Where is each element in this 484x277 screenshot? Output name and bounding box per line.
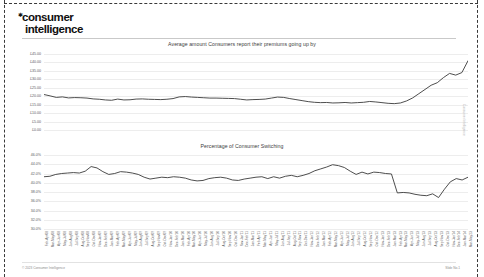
x-axis-tick-label: Jul-Sep'10 — [216, 231, 220, 246]
x-axis-tick-label: Jun-Aug'08 — [69, 231, 73, 247]
x-axis-tick-label: Aug-Oct'11 — [293, 231, 297, 246]
x-axis-tick-label: Mar-May'09 — [122, 231, 126, 247]
footer-divider — [22, 262, 456, 263]
chart1-plot-area: £45.00£40.00£35.00£30.00£25.00£20.00£15.… — [44, 54, 468, 130]
x-axis-tick-label: Apr-Jun'13 — [410, 231, 414, 246]
x-axis-tick-label: Jan-Mar'12 — [322, 231, 326, 246]
y-axis-tick-label: £10.00 — [30, 111, 41, 115]
chart-consumer-switching: Percentage of Consumer Switching 46.0%44… — [0, 143, 484, 263]
x-axis-tick-label: Oct-Dec'08 — [92, 231, 96, 246]
x-axis-tick-label: Jul-Sep'09 — [145, 231, 149, 246]
x-axis-tick-label: Jul-Sep'12 — [357, 231, 361, 246]
x-axis-tick-label: Apr-Jun'09 — [128, 231, 132, 246]
x-axis-tick-label: Apr-Jun'11 — [269, 231, 273, 246]
x-axis-tick-label: Jul-Sep'11 — [287, 231, 291, 245]
y-axis-tick-label: 42.0% — [31, 172, 41, 176]
x-axis-tick-label: Jun-Aug'13 — [422, 231, 426, 247]
chart1-series — [44, 54, 468, 130]
x-axis-tick-label: Mar-May'11 — [263, 231, 267, 247]
x-axis-tick-label: Jan-Mar'11 — [251, 231, 255, 246]
y-axis-tick-label: £5.00 — [32, 120, 41, 124]
y-axis-tick-label: 32.0% — [31, 218, 41, 222]
slide-page: ✱ consumer intelligence Average amount C… — [0, 0, 484, 277]
x-axis-tick-label: Mar-May'12 — [334, 231, 338, 247]
x-axis-tick-label: Dec-Feb'12 — [316, 231, 320, 247]
x-axis-tick-label: Sep-Nov'13 — [440, 231, 444, 247]
x-axis-tick-label: Jun-Aug'10 — [210, 231, 214, 247]
x-axis-tick-label: Jun-Aug'11 — [281, 231, 285, 246]
y-axis-tick-label: £35.00 — [30, 69, 41, 73]
x-axis-tick-label: Nov-Jan'10 — [169, 231, 173, 247]
x-axis-tick-label: Dec-Feb'14 — [457, 231, 461, 247]
x-axis-tick-label: Feb-Apr'10 — [187, 231, 191, 246]
y-axis-tick-label: 34.0% — [31, 209, 41, 213]
x-axis-tick-label: Nov-Jan'09 — [98, 231, 102, 247]
y-axis-tick-label: 36.0% — [31, 199, 41, 203]
x-axis-tick-label: Jan-Mar'13 — [393, 231, 397, 246]
x-axis-tick-label: Sep-Nov'10 — [228, 231, 232, 247]
x-axis-tick-label: Sep-Nov'12 — [369, 231, 373, 247]
x-axis-tick-label: Nov-Jan'14 — [452, 231, 456, 247]
chart2-title: Percentage of Consumer Switching — [0, 143, 484, 149]
x-axis-tick-label: Jan-Mar'14 — [463, 231, 467, 246]
x-axis-tick-label: Nov-Jan'12 — [310, 231, 314, 247]
x-axis-tick-label: Apr-Jun'12 — [340, 231, 344, 246]
x-axis-tick-label: Aug-Oct'12 — [363, 231, 367, 246]
x-axis-tick-label: Aug-Oct'09 — [151, 231, 155, 246]
x-axis-tick-label: Jan-Mar'09 — [110, 231, 114, 246]
page-border-top — [4, 3, 478, 4]
y-axis-tick-label: 40.0% — [31, 181, 41, 185]
x-axis-tick-label: May-Jul'11 — [275, 231, 279, 246]
x-axis-tick-label: Aug-Oct'10 — [222, 231, 226, 246]
x-axis-tick-label: Sep-Nov'08 — [86, 231, 90, 247]
y-axis-tick-label: £20.00 — [30, 94, 41, 98]
y-axis-tick-label: 30.0% — [31, 227, 41, 231]
y-axis-tick-label: 46.0% — [31, 153, 41, 157]
x-axis-tick-label: May-Jul'09 — [134, 231, 138, 246]
x-axis-tick-label: Feb-Apr'08 — [45, 231, 49, 246]
x-axis-tick-label: Jul-Sep'08 — [75, 231, 79, 246]
x-axis-tick-label: May-Jul'10 — [204, 231, 208, 246]
x-axis-tick-label: Dec-Feb'13 — [387, 231, 391, 247]
gridline — [44, 130, 468, 131]
x-axis-tick-label: Oct-Dec'12 — [375, 231, 379, 246]
x-axis-tick-label: Oct-Dec'10 — [234, 231, 238, 246]
footer-slide-marker: Slide No.1 — [445, 266, 460, 270]
x-axis-tick-label: Jun-Aug'09 — [139, 231, 143, 247]
y-axis-tick-label: £45.00 — [30, 52, 41, 56]
chart-average-premium-increase: Average amount Consumers report their pr… — [0, 41, 484, 141]
x-axis-tick-label: Feb-Apr'12 — [328, 231, 332, 246]
chart2-x-axis-labels: Feb-Apr'08Mar-May'08Apr-Jun'08May-Jul'08… — [44, 231, 468, 263]
x-axis-tick-label: Mar-May'23 — [469, 231, 473, 247]
y-axis-tick-label: £25.00 — [30, 86, 41, 90]
x-axis-tick-label: Aug-Oct'08 — [81, 231, 85, 246]
x-axis-tick-label: May-Jul'13 — [416, 231, 420, 246]
y-axis-tick-label: 44.0% — [31, 162, 41, 166]
brand-name-line2: intelligence — [25, 24, 83, 36]
footer-copyright: © 2023 Consumer Intelligence — [22, 266, 65, 270]
gridline — [44, 229, 468, 230]
x-axis-tick-label: Mar-May'10 — [192, 231, 196, 247]
chart2-series — [44, 155, 468, 229]
brand-name-line1: consumer — [22, 12, 83, 24]
sparkle-icon: ✱ — [18, 12, 23, 18]
x-axis-tick-label: Apr-Jun'10 — [198, 231, 202, 246]
chart2-plot-area: 46.0%44.0%42.0%40.0%38.0%36.0%34.0%32.0%… — [44, 155, 468, 229]
edge-vertical-note: Consumer Intelligence — [462, 104, 466, 136]
x-axis-tick-label: Nov-Jan'13 — [381, 231, 385, 247]
x-axis-tick-label: Sep-Nov'09 — [157, 231, 161, 247]
y-axis-tick-label: 38.0% — [31, 190, 41, 194]
x-axis-tick-label: Mar-May'13 — [404, 231, 408, 247]
chart1-title: Average amount Consumers report their pr… — [0, 41, 484, 47]
header-divider — [22, 38, 456, 39]
x-axis-tick-label: Jul-Sep'13 — [428, 231, 432, 246]
x-axis-tick-label: Feb-Apr'11 — [257, 231, 261, 246]
y-axis-tick-label: £30.00 — [30, 77, 41, 81]
x-axis-tick-label: Feb-Apr'09 — [116, 231, 120, 246]
x-axis-tick-label: Mar-May'08 — [51, 231, 55, 247]
x-axis-tick-label: May-Jul'08 — [63, 231, 67, 246]
brand-logo: ✱ consumer intelligence — [22, 12, 83, 35]
x-axis-tick-label: Apr-Jun'08 — [57, 231, 61, 246]
x-axis-tick-label: Jan-Mar'10 — [181, 231, 185, 246]
y-axis-tick-label: £0.00 — [32, 128, 41, 132]
